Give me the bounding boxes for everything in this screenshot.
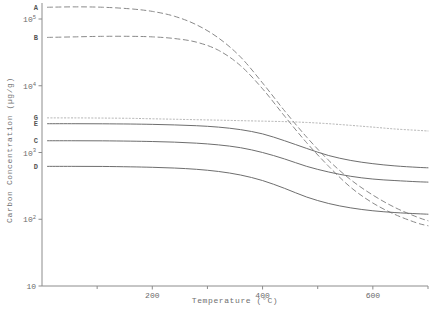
series-label-d: D [34,163,38,171]
axis-lines [42,3,428,286]
chart-figure: 10102103104105200400600 ABGECD Temperatu… [0,0,442,315]
x-tick-label: 600 [366,291,381,300]
series-curve-d [48,166,428,214]
series-curve-e [48,124,428,168]
y-tick-label: 10 [26,282,36,291]
y-axis-title: Carbon Concentration (µg/g) [5,77,14,223]
y-tick-label: 104 [23,81,37,91]
curves-group [48,7,428,226]
y-tick-label: 105 [23,14,36,24]
tick-labels-group: 10102103104105200400600 [23,14,380,300]
y-tick-label: 102 [23,214,36,224]
series-curve-c [48,141,428,182]
series-curve-b [48,36,428,225]
series-label-a: A [34,4,39,12]
x-axis-title: Temperature (°C) [192,296,278,305]
series-label-e: E [34,120,38,128]
x-tick-label: 200 [145,291,160,300]
series-label-c: C [34,137,38,145]
y-tick-label: 103 [23,147,36,157]
series-label-b: B [34,34,39,42]
series-curve-a [48,7,428,221]
chart-plot-area: 10102103104105200400600 ABGECD Temperatu… [0,0,442,315]
